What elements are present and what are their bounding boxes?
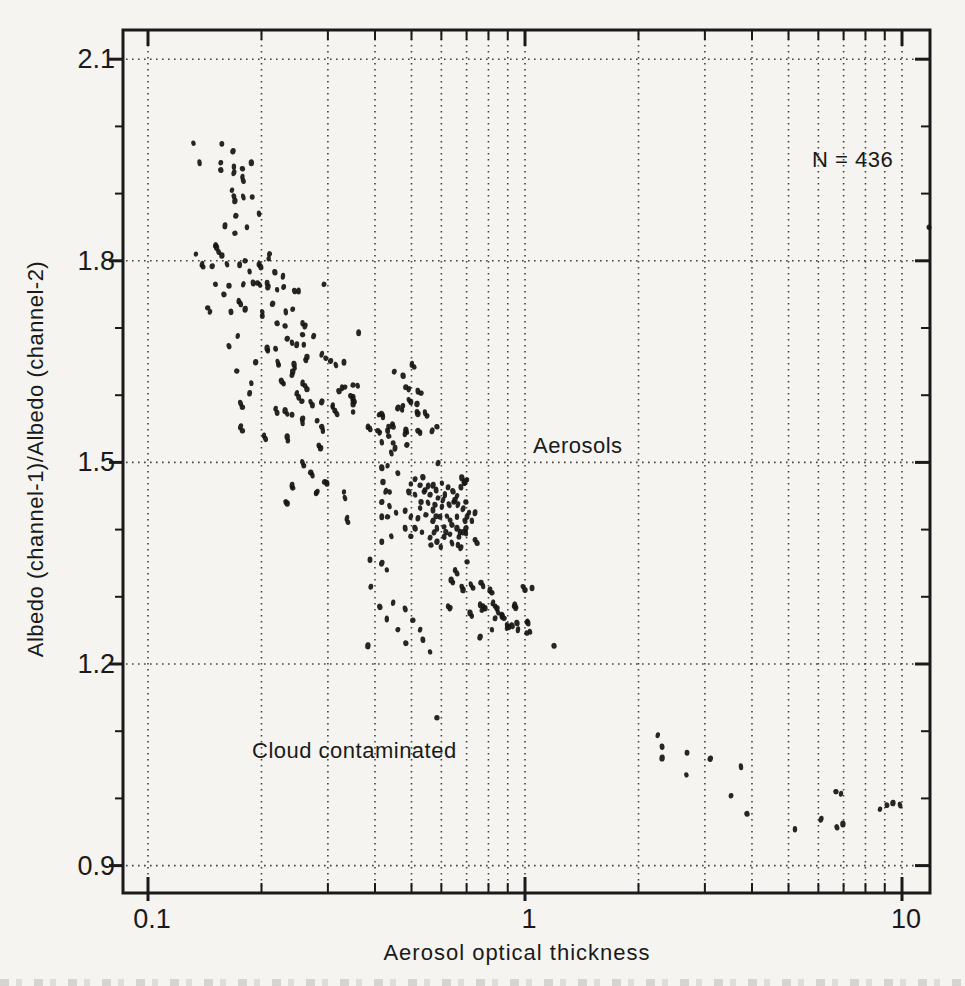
data-point — [435, 459, 441, 467]
data-point — [226, 342, 232, 350]
y-tick-label: 1.2 — [77, 649, 115, 679]
data-point — [402, 524, 408, 532]
data-point — [478, 601, 482, 608]
data-point — [272, 269, 278, 276]
data-point — [321, 281, 327, 287]
data-point — [417, 626, 423, 633]
data-point — [219, 141, 224, 147]
data-point — [489, 627, 494, 633]
data-point — [275, 287, 280, 293]
data-point — [402, 605, 408, 613]
scatter-plot-figure: 0.11102.11.81.51.20.9 Albedo (channel-1)… — [0, 0, 965, 986]
data-point — [379, 464, 385, 472]
data-point — [284, 500, 289, 507]
data-point — [260, 313, 265, 319]
data-point — [744, 810, 751, 817]
data-point — [333, 361, 339, 368]
data-point — [240, 193, 246, 201]
data-point — [833, 789, 839, 795]
data-point — [294, 341, 300, 349]
data-point — [290, 306, 296, 312]
data-point — [415, 515, 421, 522]
data-point — [384, 567, 389, 573]
data-point — [304, 354, 309, 361]
data-point — [392, 444, 398, 452]
data-point — [659, 754, 665, 762]
data-point — [434, 715, 439, 720]
data-point — [439, 480, 444, 486]
data-point — [391, 368, 397, 375]
data-point — [418, 499, 423, 505]
data-point — [429, 427, 435, 435]
data-point — [420, 474, 426, 481]
data-point — [427, 491, 433, 498]
data-point — [232, 163, 236, 170]
data-point — [793, 826, 797, 833]
data-point — [450, 487, 457, 495]
data-point — [197, 159, 202, 167]
data-point — [840, 820, 845, 827]
data-point — [455, 514, 459, 521]
data-point — [237, 261, 242, 268]
data-point — [229, 187, 235, 193]
data-point — [834, 824, 840, 832]
data-point — [221, 291, 227, 298]
data-point — [472, 509, 478, 517]
data-point — [434, 424, 440, 430]
data-point — [707, 755, 714, 763]
data-point — [420, 530, 424, 535]
data-point — [380, 479, 385, 486]
data-point — [379, 499, 385, 506]
data-point — [253, 359, 259, 366]
data-point — [242, 305, 248, 313]
data-point — [245, 224, 249, 230]
data-point — [247, 268, 252, 274]
data-point — [449, 539, 455, 547]
data-point — [289, 339, 294, 346]
data-point — [404, 441, 411, 448]
data-point — [423, 512, 430, 519]
data-point — [418, 505, 423, 511]
data-point — [412, 491, 418, 498]
data-point — [356, 329, 361, 336]
data-point — [249, 159, 254, 166]
cloud-contaminated-annotation: Cloud contaminated — [252, 738, 457, 764]
data-point — [400, 372, 406, 379]
data-point — [379, 513, 384, 520]
data-point — [431, 507, 436, 514]
data-point — [231, 169, 237, 177]
data-point — [209, 263, 215, 270]
data-point — [299, 331, 306, 338]
data-point — [514, 619, 520, 626]
data-point — [391, 599, 396, 606]
data-point — [230, 147, 237, 155]
data-point — [385, 433, 392, 440]
data-point — [284, 335, 291, 342]
data-point — [684, 772, 690, 778]
data-point — [368, 583, 374, 590]
data-point — [410, 618, 415, 623]
data-point — [341, 489, 346, 495]
data-point — [408, 513, 414, 520]
x-tick-label: 0.1 — [133, 904, 171, 934]
data-point — [395, 627, 401, 633]
data-point — [434, 538, 440, 545]
data-point — [342, 359, 347, 366]
data-point — [412, 476, 418, 483]
data-point — [310, 332, 316, 340]
data-point — [388, 533, 394, 540]
data-point — [465, 514, 470, 520]
data-point — [219, 252, 224, 259]
data-point — [365, 642, 371, 650]
data-point — [342, 494, 348, 501]
data-point — [378, 559, 385, 567]
data-point — [376, 603, 383, 611]
data-point — [233, 212, 240, 219]
cutoff-caption-fragment — [0, 979, 965, 986]
data-point — [351, 409, 355, 414]
plot-frame — [123, 30, 930, 893]
data-point — [266, 251, 272, 258]
data-point — [403, 640, 409, 647]
data-point — [738, 763, 743, 771]
data-point — [226, 283, 231, 289]
